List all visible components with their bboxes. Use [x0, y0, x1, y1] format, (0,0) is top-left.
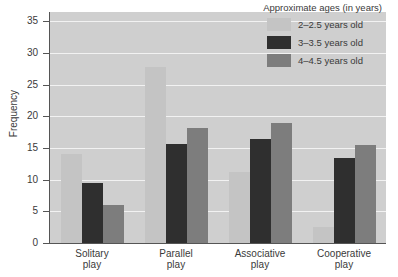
y-axis-tick — [43, 21, 49, 22]
y-axis-tick — [43, 243, 49, 244]
y-axis-tick — [43, 211, 49, 212]
y-axis-tick — [43, 180, 49, 181]
legend-item: 4–4.5 years old — [198, 54, 384, 67]
y-axis-tick — [43, 148, 49, 149]
x-axis-category-label: Cooperative play — [302, 248, 386, 270]
legend-item: 3–3.5 years old — [198, 36, 384, 49]
y-axis-tick-label: 25 — [8, 80, 38, 90]
y-axis-tick-label: 35 — [8, 16, 38, 26]
bar — [187, 128, 208, 243]
legend-label: 3–3.5 years old — [298, 37, 384, 48]
x-axis-category-label: Associative play — [218, 248, 302, 270]
gridline — [50, 148, 386, 149]
y-axis-tick-label: 30 — [8, 48, 38, 58]
x-axis-line — [49, 243, 386, 244]
y-axis-tick-label: 10 — [8, 175, 38, 185]
legend-rows: 2–2.5 years old3–3.5 years old4–4.5 year… — [198, 18, 384, 67]
bar — [355, 145, 376, 243]
legend-label: 2–2.5 years old — [298, 19, 384, 30]
bar — [145, 67, 166, 243]
y-axis-tick-label: 0 — [8, 238, 38, 248]
bar — [103, 205, 124, 243]
legend-item: 2–2.5 years old — [198, 18, 384, 31]
legend-swatch — [267, 18, 291, 31]
y-axis-tick-label: 15 — [8, 143, 38, 153]
bar — [229, 172, 250, 243]
y-axis-tick — [43, 116, 49, 117]
gridline — [50, 116, 386, 117]
x-axis-category-label: Solitary play — [50, 248, 134, 270]
bar — [313, 227, 334, 243]
legend-title: Approximate ages (in years) — [198, 2, 384, 13]
bar — [166, 144, 187, 243]
bar-chart-figure: Frequency Approximate ages (in years) 2–… — [0, 0, 398, 277]
legend-swatch — [267, 54, 291, 67]
bar — [61, 154, 82, 243]
y-axis-tick — [43, 53, 49, 54]
y-axis-tick-label: 20 — [8, 111, 38, 121]
legend-label: 4–4.5 years old — [298, 55, 384, 66]
y-axis-tick — [43, 85, 49, 86]
x-axis-category-label: Parallel play — [134, 248, 218, 270]
chart-legend: Approximate ages (in years) 2–2.5 years … — [198, 2, 384, 72]
bar — [250, 139, 271, 243]
gridline — [50, 85, 386, 86]
bar — [82, 183, 103, 243]
y-axis-line — [49, 12, 50, 244]
legend-swatch — [267, 36, 291, 49]
y-axis-tick-label: 5 — [8, 206, 38, 216]
bar — [271, 123, 292, 243]
bar — [334, 158, 355, 243]
